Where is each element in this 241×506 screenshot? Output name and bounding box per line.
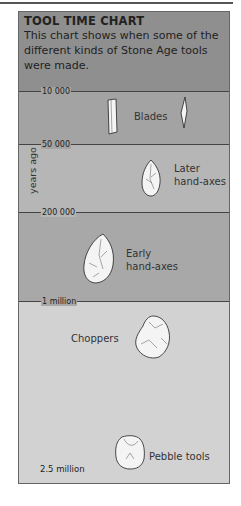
axis-label: years ago — [27, 146, 38, 196]
chart-description: This chart shows when some of the differ… — [24, 28, 229, 73]
blade-icon — [180, 97, 188, 129]
chopper-icon — [133, 314, 173, 360]
label-later: Later — [174, 162, 200, 175]
blade-icon — [105, 98, 119, 136]
chart-title: TOOL TIME CHART — [24, 14, 144, 28]
band-choppers: 1 million Choppers Pebble tools 2.5 mill… — [19, 301, 229, 484]
label-early-hand-axes: hand-axes — [126, 260, 178, 273]
tick-50000: 50 000 — [41, 140, 71, 149]
tick-1-million: 1 million — [41, 297, 77, 306]
pebble-tool-icon — [114, 433, 146, 471]
label-hand-axes: hand-axes — [174, 175, 226, 188]
tick-200000: 200 000 — [41, 208, 76, 217]
tick-10000: 10 000 — [41, 87, 71, 96]
band-later-hand-axes: 50 000 Later hand-axes years ago — [19, 144, 229, 212]
label-blades: Blades — [134, 110, 167, 123]
top-rule — [0, 2, 233, 4]
label-pebble-tools: Pebble tools — [149, 450, 210, 463]
label-early: Early — [126, 247, 151, 260]
tool-time-chart: TOOL TIME CHART This chart shows when so… — [18, 11, 230, 484]
band-early-hand-axes: 200 000 Early hand-axes — [19, 212, 229, 301]
hand-axe-icon — [140, 159, 162, 197]
band-blades: 10 000 Blades — [19, 91, 229, 144]
label-choppers: Choppers — [71, 332, 119, 345]
tick-2-5-million: 2.5 million — [39, 465, 86, 474]
title-band: TOOL TIME CHART This chart shows when so… — [19, 12, 229, 91]
hand-axe-icon — [81, 233, 117, 285]
